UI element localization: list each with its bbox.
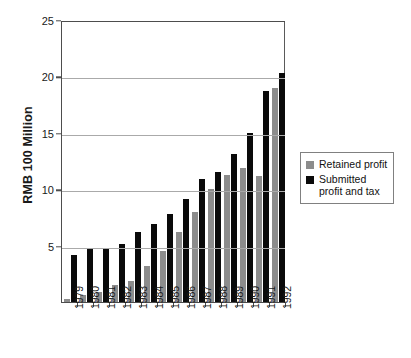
bar-submitted-profit-and-tax [263,91,269,302]
bar-retained-profit [224,175,230,302]
legend-label-retained-profit: Retained profit [319,158,387,170]
legend-item-submitted-profit-and-tax: Submitted profit and tax [306,173,389,197]
bar-group [224,22,237,302]
bar-group [256,22,269,302]
plot-area [61,21,285,303]
bar-group [64,22,77,302]
y-tick-mark [56,246,61,247]
x-tick-label: 1989 [233,286,245,309]
bar-submitted-profit-and-tax [231,154,237,302]
x-tick-label: 1984 [153,286,165,309]
y-tick-label: 10 [20,184,54,196]
legend-label-submitted-profit-and-tax: Submitted profit and tax [319,173,389,197]
bar-retained-profit [256,176,262,302]
x-tick-label: 1988 [217,286,229,309]
x-tick-label: 1979 [73,286,85,309]
bar-group [160,22,173,302]
x-tick-label: 1985 [169,286,181,309]
y-tick-mark [56,77,61,78]
bar-retained-profit [240,168,246,302]
gridline [62,135,285,136]
bar-group [128,22,141,302]
y-axis-title: RMB 100 Million [21,65,35,245]
bars-layer [62,22,285,302]
x-tick-label: 1981 [105,286,117,309]
gridline [62,191,285,192]
x-tick-label: 1990 [249,286,261,309]
x-tick-label: 1991 [265,286,277,309]
bar-group [80,22,93,302]
x-tick-label: 1986 [185,286,197,309]
y-tick-label: 15 [20,128,54,140]
bar-submitted-profit-and-tax [279,73,285,302]
legend-swatch-submitted-profit-and-tax [306,176,314,184]
legend-swatch-retained-profit [306,161,314,169]
bar-group [96,22,109,302]
y-tick-label: 5 [20,241,54,253]
bar-submitted-profit-and-tax [247,133,253,302]
x-tick-label: 1982 [121,286,133,309]
bar-group [112,22,125,302]
legend-item-retained-profit: Retained profit [306,158,389,170]
y-tick-label: 20 [20,71,54,83]
x-tick-label: 1980 [89,286,101,309]
bar-retained-profit [272,88,278,302]
bar-group [208,22,221,302]
bar-submitted-profit-and-tax [199,179,205,302]
y-tick-label: 25 [20,15,54,27]
bar-chart: RMB 100 Million 510152025 19791980198119… [0,0,411,358]
bar-group [176,22,189,302]
bar-group [272,22,285,302]
y-tick-mark [56,133,61,134]
x-tick-label: 1987 [201,286,213,309]
x-tick-label: 1992 [281,286,293,309]
bar-group [240,22,253,302]
bar-retained-profit [64,299,70,302]
x-tick-label: 1983 [137,286,149,309]
bar-group [144,22,157,302]
gridline [62,248,285,249]
bar-group [192,22,205,302]
chart-legend: Retained profit Submitted profit and tax [300,152,394,204]
y-tick-mark [56,20,61,21]
y-tick-mark [56,189,61,190]
gridline [62,78,285,79]
